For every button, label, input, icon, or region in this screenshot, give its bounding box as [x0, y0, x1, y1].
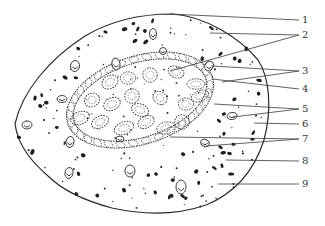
small-dot	[112, 201, 113, 202]
inner-dot	[166, 95, 168, 97]
vacuole-wall	[150, 29, 157, 40]
vacuole-inner-line	[118, 139, 123, 140]
small-dot	[135, 33, 137, 35]
vacuole-wall	[200, 138, 211, 148]
rim-granule	[77, 86, 84, 96]
small-dot	[136, 207, 138, 209]
cell-body	[130, 101, 151, 119]
dark-granule	[62, 75, 69, 81]
label-2: 2	[302, 29, 308, 40]
cell-body	[142, 67, 158, 83]
small-dot	[102, 36, 103, 37]
inner-dot	[161, 79, 162, 80]
small-dot	[200, 195, 202, 197]
inner-dot	[91, 113, 92, 114]
small-dot	[78, 56, 79, 57]
cell-body-core	[155, 93, 165, 103]
small-dot	[250, 64, 251, 65]
small-dot	[46, 101, 48, 103]
vacuole-wall	[116, 136, 124, 142]
vacuole-inner-line	[24, 125, 30, 127]
small-dot	[202, 195, 204, 197]
vacuole	[125, 165, 135, 177]
small-dot	[183, 155, 184, 156]
vacuole-inner-line	[59, 99, 65, 100]
small-dot	[48, 132, 50, 134]
vacuole	[22, 121, 32, 129]
inner-dot	[134, 66, 136, 68]
dark-granule	[222, 131, 226, 136]
dark-granule	[146, 173, 151, 178]
inner-dot	[190, 94, 191, 95]
small-dot	[62, 181, 64, 183]
small-dot	[238, 106, 240, 108]
inner-dot	[163, 69, 165, 71]
vacuole-wall	[176, 180, 186, 194]
cell-body	[82, 91, 102, 110]
dark-granule	[237, 58, 243, 64]
cell-body-core	[104, 77, 116, 88]
small-dot	[43, 119, 45, 121]
vacuole-wall	[226, 112, 237, 121]
small-dot	[184, 204, 185, 205]
leader-line	[210, 33, 299, 35]
rim-granule	[68, 102, 75, 112]
small-dot	[173, 176, 175, 178]
small-dot	[260, 117, 261, 118]
dark-granule	[29, 148, 35, 155]
inner-dot	[127, 134, 129, 136]
rim-granule	[142, 53, 152, 60]
cell-body-core	[74, 113, 86, 123]
inner-dot	[178, 95, 180, 97]
small-dot	[211, 186, 213, 188]
small-dot	[87, 44, 89, 46]
dark-granule	[135, 26, 140, 32]
dark-granule	[227, 152, 232, 156]
inner-dot	[113, 87, 114, 88]
vacuole	[57, 96, 67, 103]
dark-granule	[121, 27, 127, 32]
inner-dot	[182, 99, 183, 100]
small-dot	[143, 188, 144, 189]
small-dot	[216, 29, 218, 31]
dark-granule	[16, 135, 21, 139]
small-dot	[174, 33, 175, 34]
inner-dot	[152, 94, 153, 95]
inner-dot	[154, 90, 156, 92]
inner-dot	[137, 77, 138, 78]
small-dot	[50, 89, 52, 91]
small-dot	[192, 151, 194, 153]
small-dot	[170, 28, 172, 30]
cell-body	[101, 95, 122, 114]
dark-granule	[131, 21, 136, 25]
inner-dot	[144, 83, 145, 84]
small-dot	[251, 61, 253, 63]
small-dot	[98, 35, 100, 37]
dark-granule	[221, 112, 226, 116]
vacuole-inner-line	[161, 51, 165, 52]
inner-dot	[176, 82, 178, 84]
inner-dot	[162, 90, 164, 92]
vacuole-wall	[22, 121, 32, 129]
vacuole-wall	[57, 96, 67, 103]
small-dot	[233, 186, 235, 188]
callout-labels: 1 2 3 4 5 6 7 8 9	[302, 14, 308, 189]
rim-granule	[202, 97, 208, 106]
dark-granule	[193, 169, 199, 175]
dark-granule	[256, 78, 262, 82]
small-dot	[221, 63, 223, 64]
dark-granule	[76, 46, 81, 51]
small-dot	[120, 158, 122, 160]
small-dot	[54, 79, 56, 81]
small-dot	[129, 184, 131, 186]
cell-body-core	[146, 71, 155, 80]
cell-body	[120, 72, 136, 84]
inner-dot	[86, 99, 87, 100]
small-dot	[63, 143, 65, 145]
small-dot	[170, 32, 172, 34]
small-dot	[76, 157, 78, 159]
small-dot	[75, 159, 77, 161]
rim-granule	[93, 70, 103, 81]
dark-granule	[80, 153, 86, 158]
label-4: 4	[302, 83, 308, 94]
